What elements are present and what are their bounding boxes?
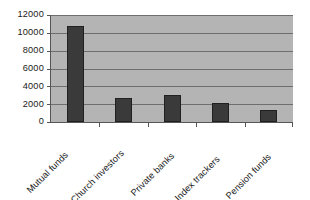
bar-church-investors[interactable]: [115, 98, 132, 122]
y-tick-label-8000: 8000: [23, 46, 44, 55]
y-tick-label-12000: 12000: [17, 10, 44, 19]
bar-chart: 12000 10000 8000 6000 4000 2000 0: [0, 0, 310, 200]
bar-index-trackers[interactable]: [212, 103, 229, 122]
plot-area: [50, 15, 293, 123]
x-tick-2: [148, 122, 149, 127]
y-axis-tick-labels: 12000 10000 8000 6000 4000 2000 0: [0, 0, 48, 200]
y-tick-label-2000: 2000: [23, 100, 44, 109]
x-tick-label-pension-funds: Pension funds: [224, 152, 273, 200]
x-tick-label-index-trackers: Index trackers: [173, 154, 222, 200]
y-tick-mark-0: [47, 122, 51, 123]
x-tick-5: [292, 122, 293, 127]
x-tick-4: [245, 122, 246, 127]
y-tick-label-6000: 6000: [23, 64, 44, 73]
y-tick-label-10000: 10000: [17, 28, 44, 37]
x-tick-3: [196, 122, 197, 127]
y-tick-label-0: 0: [39, 117, 44, 126]
x-tick-label-church-investors: Church investors: [69, 148, 126, 200]
x-tick-1: [99, 122, 100, 127]
bar-pension-funds[interactable]: [260, 110, 277, 122]
y-tick-label-4000: 4000: [23, 82, 44, 91]
bar-mutual-funds[interactable]: [67, 26, 84, 122]
x-tick-label-private-banks: Private banks: [129, 151, 176, 198]
bar-private-banks[interactable]: [164, 95, 181, 122]
bars-layer: [51, 15, 293, 122]
